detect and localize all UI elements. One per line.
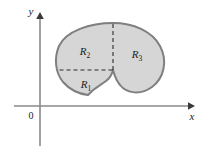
region-label-r3-sub: 3	[138, 54, 142, 63]
y-axis-label: y	[28, 5, 34, 17]
origin-label: 0	[29, 110, 34, 121]
x-axis-arrowhead	[188, 102, 195, 110]
region-label-r1-sub: 1	[87, 84, 91, 93]
y-axis-arrowhead	[36, 12, 44, 19]
kidney-region-shape	[56, 23, 164, 95]
x-axis-label: x	[189, 110, 195, 122]
diagram-svg: y x 0 R2 R3 R1	[0, 0, 208, 151]
figure-canvas: y x 0 R2 R3 R1	[0, 0, 208, 151]
region-label-r2-sub: 2	[86, 51, 90, 60]
x-axis	[14, 102, 195, 110]
y-axis	[36, 12, 44, 146]
